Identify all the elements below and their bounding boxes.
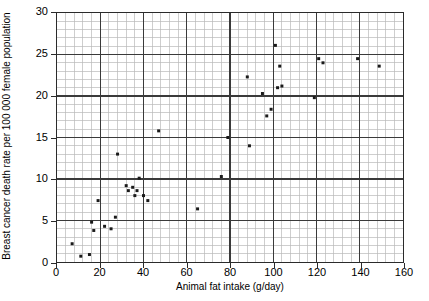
y-tick-mark bbox=[51, 54, 56, 55]
x-tick-mark bbox=[56, 263, 57, 268]
data-point bbox=[157, 129, 160, 132]
x-tick-mark bbox=[187, 263, 188, 268]
y-tick-label: 20 bbox=[0, 90, 48, 101]
x-axis-title: Animal fat intake (g/day) bbox=[56, 281, 404, 292]
data-point bbox=[92, 229, 95, 232]
plot-area bbox=[56, 12, 404, 263]
x-tick-mark bbox=[317, 263, 318, 268]
data-point bbox=[127, 189, 130, 192]
data-point bbox=[261, 92, 264, 95]
data-point bbox=[270, 108, 273, 111]
data-point bbox=[103, 225, 106, 228]
data-point bbox=[90, 221, 93, 224]
data-point bbox=[220, 175, 223, 178]
data-point bbox=[378, 65, 381, 68]
data-point bbox=[114, 216, 117, 219]
data-point bbox=[226, 136, 229, 139]
data-point bbox=[116, 153, 119, 156]
data-point bbox=[276, 86, 279, 89]
y-tick-label: 5 bbox=[0, 215, 48, 226]
data-point bbox=[142, 194, 145, 197]
y-tick-label: 10 bbox=[0, 173, 48, 184]
x-tick-label: 100 bbox=[254, 267, 294, 278]
data-point bbox=[248, 144, 251, 147]
x-tick-label: 60 bbox=[167, 267, 207, 278]
data-point bbox=[136, 189, 139, 192]
x-tick-mark bbox=[143, 263, 144, 268]
x-tick-label: 140 bbox=[341, 267, 381, 278]
data-points-layer bbox=[71, 44, 381, 258]
data-point bbox=[313, 96, 316, 99]
y-tick-mark bbox=[51, 96, 56, 97]
data-point bbox=[274, 44, 277, 47]
y-tick-label: 25 bbox=[0, 48, 48, 59]
data-point bbox=[125, 184, 128, 187]
x-tick-label: 160 bbox=[384, 267, 424, 278]
x-tick-mark bbox=[274, 263, 275, 268]
y-tick-label: 15 bbox=[0, 132, 48, 143]
data-point bbox=[246, 75, 249, 78]
data-point bbox=[71, 242, 74, 245]
x-tick-mark bbox=[100, 263, 101, 268]
x-tick-mark bbox=[230, 263, 231, 268]
data-point bbox=[278, 65, 281, 68]
data-point bbox=[88, 253, 91, 256]
x-tick-label: 80 bbox=[210, 267, 250, 278]
x-tick-label: 120 bbox=[297, 267, 337, 278]
plot-grid-and-points bbox=[57, 13, 403, 262]
data-point bbox=[356, 57, 359, 60]
data-point bbox=[133, 194, 136, 197]
x-tick-label: 40 bbox=[123, 267, 163, 278]
data-point bbox=[131, 186, 134, 189]
y-tick-mark bbox=[51, 12, 56, 13]
data-point bbox=[265, 114, 268, 117]
y-tick-mark bbox=[51, 221, 56, 222]
x-tick-mark bbox=[361, 263, 362, 268]
y-tick-mark bbox=[51, 138, 56, 139]
data-point bbox=[280, 85, 283, 88]
y-tick-label: 30 bbox=[0, 6, 48, 17]
data-point bbox=[110, 227, 113, 230]
data-point bbox=[196, 207, 199, 210]
data-point bbox=[79, 255, 82, 258]
y-tick-mark bbox=[51, 179, 56, 180]
scatter-chart-figure: Breast cancer death rate per 100 000 fem… bbox=[0, 0, 429, 301]
data-point bbox=[146, 199, 149, 202]
data-point bbox=[138, 177, 141, 180]
data-point bbox=[97, 199, 100, 202]
x-tick-label: 20 bbox=[80, 267, 120, 278]
data-point bbox=[317, 57, 320, 60]
data-point bbox=[322, 61, 325, 64]
x-tick-mark bbox=[404, 263, 405, 268]
x-tick-label: 0 bbox=[36, 267, 76, 278]
